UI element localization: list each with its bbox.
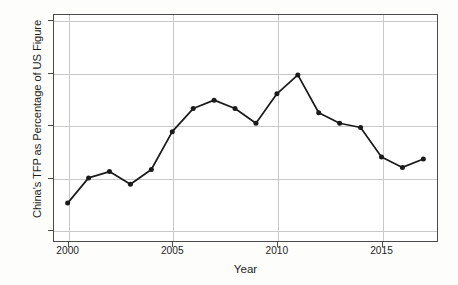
x-tick-label: 2010 [252,245,302,256]
gridline-vertical [173,15,174,241]
gridline-horizontal [54,231,437,232]
y-tick-mark [48,178,53,179]
x-tick-label: 2000 [43,245,93,256]
gridline-horizontal [54,179,437,180]
gridline-vertical [278,15,279,241]
chart-figure: China's TFP as Percentage of US Figure 3… [0,0,458,285]
plot-area [53,14,438,242]
y-axis-title: China's TFP as Percentage of US Figure [31,4,43,234]
y-tick-mark [48,230,53,231]
gridline-horizontal [54,126,437,127]
gridline-vertical [69,15,70,241]
x-axis-title: Year [53,262,438,275]
x-tick-label: 2005 [147,245,197,256]
x-tick-label: 2015 [357,245,407,256]
y-tick-mark [48,73,53,74]
gridline-horizontal [54,21,437,22]
gridline-horizontal [54,74,437,75]
y-tick-mark [48,125,53,126]
y-tick-mark [48,20,53,21]
gridline-vertical [383,15,384,241]
